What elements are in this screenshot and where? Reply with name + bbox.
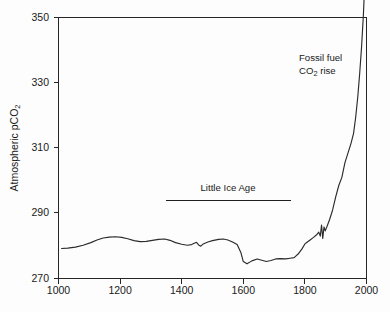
xtick-label-1400: 1400 (170, 284, 194, 296)
ytick-label-330: 330 (31, 76, 49, 88)
xtick-label-1000: 1000 (47, 284, 71, 296)
little-ice-age-label: Little Ice Age (201, 182, 256, 193)
ytick-label-290: 290 (31, 206, 49, 218)
y-axis-title-main: Atmospheric pCO (8, 109, 20, 192)
ytick-label-310: 310 (31, 141, 49, 153)
ytick-label-350: 350 (31, 11, 49, 23)
fossil-fuel-rise-tail: rise (318, 65, 336, 76)
fossil-fuel-annotation-line1: Fossil fuel (299, 52, 342, 63)
xtick-label-1800: 1800 (293, 284, 317, 296)
fossil-fuel-co2-main: CO (299, 65, 313, 76)
fossil-fuel-annotation-line2: CO2 rise (299, 65, 336, 78)
svg-text:Atmospheric pCO2: Atmospheric pCO2 (8, 105, 22, 192)
y-axis-title: Atmospheric pCO2 (8, 105, 22, 192)
pco2-line-chart: 350 330 310 290 270 1000 1200 1400 1600 … (0, 0, 390, 312)
chart-figure: 350 330 310 290 270 1000 1200 1400 1600 … (0, 0, 390, 312)
xtick-label-1200: 1200 (108, 284, 132, 296)
xtick-label-1600: 1600 (232, 284, 256, 296)
y-axis-title-subscript: 2 (13, 105, 22, 109)
pco2-data-line (62, 0, 365, 264)
ytick-label-270: 270 (31, 272, 49, 284)
xtick-label-2000: 2000 (355, 284, 379, 296)
